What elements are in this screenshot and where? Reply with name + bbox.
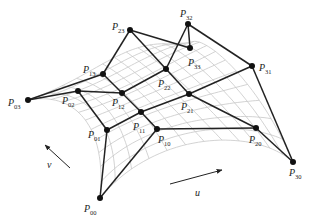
control-point-p20 (253, 125, 259, 131)
control-net-edge (103, 74, 122, 93)
control-net-edge (157, 128, 256, 129)
label-p00: P00 (83, 203, 97, 216)
control-point-p02 (75, 88, 81, 94)
label-p20: P20 (248, 134, 262, 147)
label-p12: P12 (111, 97, 125, 110)
control-net-edge (252, 66, 293, 162)
label-p30: P30 (288, 167, 302, 180)
control-point-p22 (163, 66, 169, 72)
axis-arrow-u (170, 170, 222, 184)
control-net-edge (100, 130, 107, 198)
label-p10: P10 (157, 134, 171, 147)
label-p23: P23 (111, 21, 125, 34)
surface-grid-line-u (28, 99, 101, 198)
control-point-p10 (154, 126, 160, 132)
control-net-edge (189, 66, 252, 94)
parameter-axes: uv (45, 145, 222, 198)
surface-grid-line-u (90, 71, 167, 150)
label-p01: P01 (87, 129, 101, 142)
control-point-p32 (185, 21, 191, 27)
control-point-p12 (119, 90, 125, 96)
label-p31: P31 (258, 62, 272, 75)
control-net-edge (78, 91, 122, 93)
control-point-p21 (186, 91, 192, 97)
control-point-p03 (25, 97, 31, 103)
label-p13: P13 (82, 64, 96, 77)
control-point-p23 (127, 27, 133, 33)
label-p21: P21 (180, 101, 194, 114)
control-points (25, 21, 296, 201)
control-point-p13 (100, 71, 106, 77)
diagram-canvas: P00P01P02P03P10P11P12P13P20P21P22P23P30P… (0, 0, 310, 220)
control-point-p01 (104, 127, 110, 133)
axis-label-v: v (47, 159, 52, 170)
axis-label-u: u (195, 187, 200, 198)
label-p11: P11 (132, 121, 145, 134)
control-net-edge (100, 129, 157, 198)
label-p32: P32 (179, 8, 193, 21)
control-point-p30 (290, 159, 296, 165)
label-p22: P22 (157, 78, 171, 91)
label-p33: P33 (187, 57, 201, 70)
control-point-p31 (249, 63, 255, 69)
control-net (28, 24, 293, 198)
control-net-edge (188, 24, 190, 48)
control-net-edge (188, 24, 252, 66)
control-point-p11 (138, 109, 144, 115)
bezier-patch-diagram: P00P01P02P03P10P11P12P13P20P21P22P23P30P… (0, 0, 310, 220)
label-p03: P03 (7, 97, 21, 110)
control-net-edge (122, 93, 141, 112)
control-point-p33 (187, 45, 193, 51)
control-point-p00 (97, 195, 103, 201)
